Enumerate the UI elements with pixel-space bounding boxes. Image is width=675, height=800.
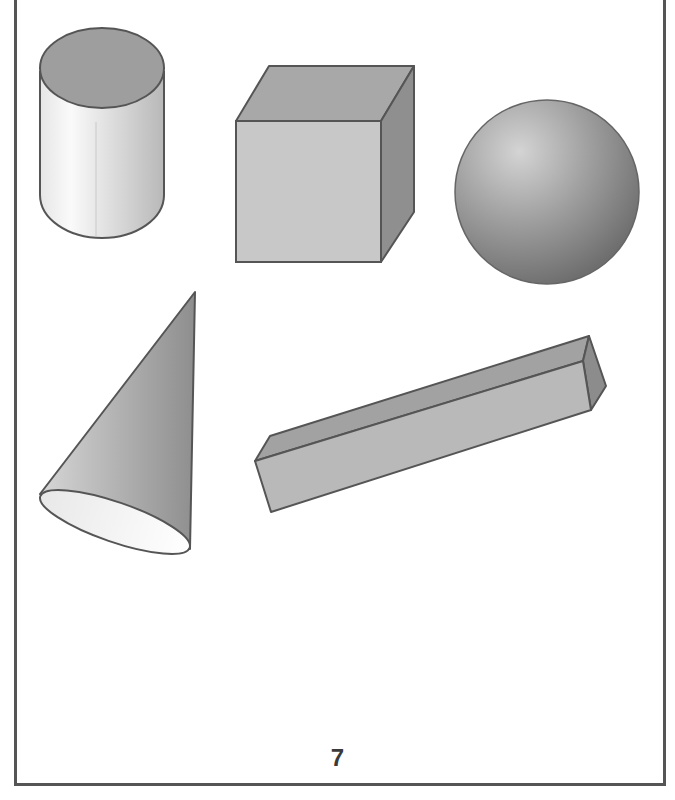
cone-shape: [34, 292, 196, 567]
page-number: 7: [0, 744, 675, 772]
shapes-illustration: [0, 0, 675, 800]
rectangular-prism-shape: [255, 336, 606, 512]
cube-shape: [236, 66, 414, 262]
sphere-shape: [455, 100, 639, 284]
cylinder-shape: [40, 28, 164, 238]
